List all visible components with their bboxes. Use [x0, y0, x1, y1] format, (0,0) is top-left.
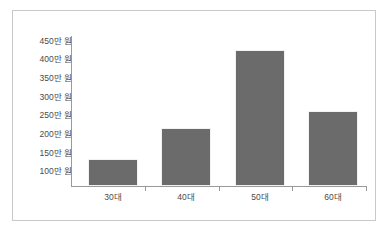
bar-60s: [308, 111, 358, 186]
y-axis-label-row: 150만 원: [12, 149, 72, 159]
y-axis-label-row: 200만 원: [12, 130, 72, 140]
bar-30s: [88, 159, 138, 186]
y-axis-label-row: 300만 원: [12, 93, 72, 103]
y-axis-label-row: 250만 원: [12, 111, 72, 121]
x-axis-tick: [219, 186, 220, 191]
y-axis-tick-label: 250만 원: [20, 111, 72, 120]
y-axis-tick-label: 200만 원: [20, 130, 72, 139]
x-axis-tick-label-40s: 40대: [161, 192, 211, 202]
y-axis-label-row: 350만 원: [12, 74, 72, 84]
y-axis-tick-label: 100만 원: [20, 167, 72, 176]
y-axis-tick-label: 400만 원: [20, 55, 72, 64]
x-axis-tick: [145, 186, 146, 191]
x-axis-tick: [292, 186, 293, 191]
y-axis-label-row: 100만 원: [12, 167, 72, 177]
y-axis-tick-label: 150만 원: [20, 149, 72, 158]
x-axis-tick-label-50s: 50대: [235, 192, 285, 202]
y-axis-label-row: 450만 원: [12, 37, 72, 47]
y-axis-tick-label: 350만 원: [20, 74, 72, 83]
x-axis-tick: [366, 186, 367, 191]
bar-50s: [235, 50, 285, 186]
x-axis-tick-label-30s: 30대: [88, 192, 138, 202]
y-axis-tick-label: 450만 원: [20, 37, 72, 46]
x-axis-tick-label-60s: 60대: [308, 192, 358, 202]
bar-40s: [161, 128, 211, 186]
bar-chart-figure: 450만 원 400만 원 350만 원 300만 원 250만 원 200만 …: [0, 0, 389, 234]
y-axis-tick-label: 300만 원: [20, 93, 72, 102]
y-axis-label-row: 400만 원: [12, 55, 72, 65]
